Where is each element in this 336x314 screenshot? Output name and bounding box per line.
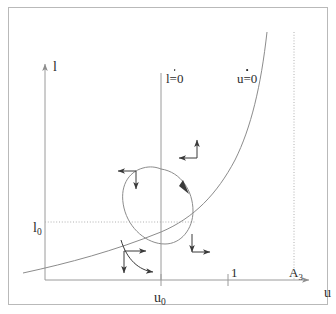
ldot-accent-letter: l=0 xyxy=(166,72,183,85)
axis-group xyxy=(45,64,309,280)
u0-subscript: 0 xyxy=(161,297,166,307)
arrow-pair-lower-right xyxy=(192,234,210,252)
udot-nullcline-label: u=0 xyxy=(237,72,257,85)
l0-axis-label: l0 xyxy=(33,221,42,238)
limit-cycle-group xyxy=(123,167,193,244)
figure-page: l l=0 u=0 l0 u0 1 A3 u xyxy=(0,0,336,314)
A3-axis-label: A3 xyxy=(289,266,303,282)
guide-line-group xyxy=(45,32,294,280)
orbit-direction-arrow xyxy=(179,180,189,194)
x-axis-label: u xyxy=(324,286,331,300)
arrow-pair-upper-right xyxy=(179,140,197,158)
A3-subscript: 3 xyxy=(298,272,302,282)
udot-accent-letter: u=0 xyxy=(237,72,257,85)
ldot-nullcline-label: l=0 xyxy=(166,72,183,85)
y-axis-label: l xyxy=(53,60,57,74)
A3-base: A xyxy=(289,265,298,280)
u0-axis-label: u0 xyxy=(154,291,166,308)
limit-cycle-orbit xyxy=(123,167,193,244)
direction-field-group xyxy=(118,140,210,273)
u0-base: u xyxy=(154,290,161,305)
phase-portrait-plot xyxy=(9,8,329,306)
figure-frame: l l=0 u=0 l0 u0 1 A3 u xyxy=(8,7,328,305)
udot-nullcline-curve xyxy=(23,32,267,273)
l0-subscript: 0 xyxy=(37,227,42,237)
tick-label-one: 1 xyxy=(231,266,238,279)
